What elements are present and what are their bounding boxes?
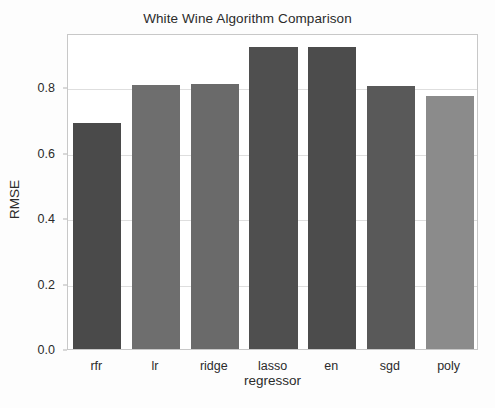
y-tick-label-0.8: 0.8 — [38, 81, 55, 95]
y-axis-label: RMSE — [7, 140, 22, 260]
x-tick-label-ridge: ridge — [200, 359, 228, 373]
chart-title: White Wine Algorithm Comparison — [0, 11, 495, 26]
x-tick-label-sgd: sgd — [380, 359, 400, 373]
bar-rfr — [73, 123, 121, 349]
plot-area — [67, 34, 478, 350]
y-tick-label-0.6: 0.6 — [38, 147, 55, 161]
bar-lr — [132, 85, 180, 349]
x-tick-label-rfr: rfr — [90, 359, 102, 373]
chart-figure: White Wine Algorithm Comparison 0.00.20.… — [0, 0, 495, 408]
bar-ridge — [191, 84, 239, 349]
y-tick-label-0.2: 0.2 — [38, 278, 55, 292]
x-tick-label-lr: lr — [152, 359, 159, 373]
y-tick-label-0.0: 0.0 — [38, 343, 55, 357]
bar-lasso — [249, 47, 297, 349]
x-axis-label: regressor — [67, 373, 478, 388]
bar-poly — [426, 96, 474, 349]
x-tick-label-en: en — [324, 359, 338, 373]
x-tick-label-lasso: lasso — [258, 359, 287, 373]
x-tick-label-poly: poly — [437, 359, 460, 373]
bar-series — [68, 35, 477, 349]
bar-sgd — [367, 86, 415, 349]
bar-en — [308, 47, 356, 349]
y-tick-label-0.4: 0.4 — [38, 212, 55, 226]
